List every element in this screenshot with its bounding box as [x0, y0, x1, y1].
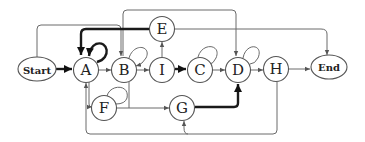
- node-label: H: [269, 60, 282, 78]
- node-h[interactable]: H: [264, 57, 289, 82]
- flow-diagram: Start A B I C D H End E F G: [0, 0, 365, 142]
- edge-e-a: [81, 29, 150, 55]
- node-label: I: [159, 61, 165, 79]
- node-b[interactable]: B: [112, 58, 137, 83]
- node-g[interactable]: G: [170, 96, 195, 121]
- node-label: G: [176, 99, 188, 117]
- node-d[interactable]: D: [226, 58, 251, 83]
- node-c[interactable]: C: [188, 58, 213, 83]
- node-i[interactable]: I: [150, 58, 175, 83]
- node-label: B: [118, 61, 129, 79]
- node-label: D: [232, 61, 244, 79]
- node-label: E: [157, 20, 168, 38]
- node-label: Start: [23, 65, 52, 76]
- node-label: A: [80, 61, 92, 79]
- node-start[interactable]: Start: [18, 57, 56, 81]
- node-label: C: [194, 61, 205, 79]
- edge-e-end: [175, 29, 327, 55]
- node-a[interactable]: A: [74, 58, 99, 83]
- edge-b-d: [123, 10, 236, 56]
- node-label: F: [99, 99, 109, 117]
- node-label: End: [318, 62, 340, 73]
- edge-a-f: [89, 82, 92, 107]
- node-e[interactable]: E: [150, 17, 175, 42]
- node-f[interactable]: F: [92, 96, 117, 121]
- edge-g-d: [195, 84, 238, 107]
- node-end[interactable]: End: [311, 55, 347, 79]
